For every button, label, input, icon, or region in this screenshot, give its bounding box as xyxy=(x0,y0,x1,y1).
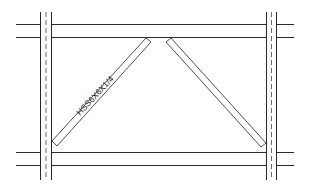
right-column xyxy=(266,12,277,180)
left-column xyxy=(40,12,52,180)
braced-frame-diagram: HSS6X6X1/4 xyxy=(0,0,309,191)
